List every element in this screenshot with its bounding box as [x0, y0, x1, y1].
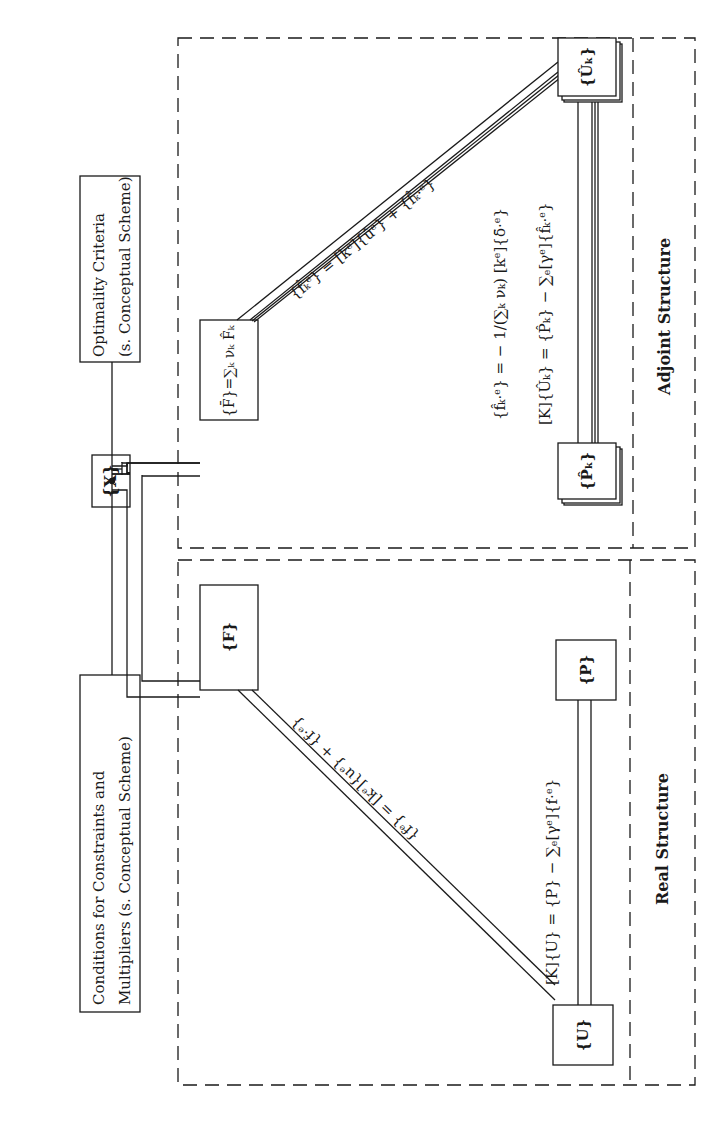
f-node-label: {F}: [220, 622, 238, 652]
u-node-label: {U}: [574, 1019, 592, 1051]
adjoint-structure-label: Adjoint Structure: [655, 238, 674, 396]
conditions-line1: Conditions for Constraints and: [90, 770, 108, 1005]
optimality-line1: Optimality Criteria: [90, 213, 108, 357]
design-variables-label: {X}: [101, 465, 120, 498]
adjoint-equation-1: {f̂ₖ·ᵉ} = − 1/(∑ₖ νₖ) [kᵉ]{δ̄·ᵉ}: [491, 208, 509, 420]
uk-node-label: {Ûₖ}: [578, 47, 596, 87]
adjoint-diagonal-equation: {f̂ₖᵉ} = [kᵉ]{ûᵉ} + {f̂ₖ·ᵉ}: [286, 174, 439, 303]
optimality-line2: (s. Conceptual Scheme): [116, 177, 134, 358]
pk-node-label: {P̂ₖ}: [578, 452, 596, 490]
adjoint-equation-2: [K]{Ûₖ} = {P̂ₖ} − ∑ₑ[γᵉ]{f̂ₖ·ᵉ}: [536, 202, 554, 425]
p-node-label: {P}: [577, 655, 595, 686]
real-structure-label: Real Structure: [653, 773, 672, 905]
real-diagonal-equation: {fᵉ} = [kᵉ]{uᵉ} + {f·ᵉ}: [287, 713, 423, 845]
conditions-line2: Multipliers (s. Conceptual Scheme): [116, 736, 134, 1005]
fbar-node-label: {F̄}=∑ₖ νₖ F̂ₖ: [220, 324, 237, 417]
diagram-canvas: {X} Optimality Criteria (s. Conceptual S…: [0, 0, 725, 1147]
real-equation: [K]{U} = {P} − ∑ₑ[γᵉ]{f·ᵉ}: [543, 779, 561, 985]
